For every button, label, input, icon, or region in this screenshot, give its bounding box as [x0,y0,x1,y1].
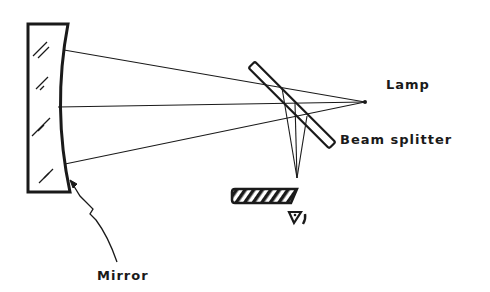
mirror-body [28,24,70,192]
mirror-pointer-arrow [70,180,117,262]
rays-mirror-lamp [58,50,365,164]
beam-splitter-label: Beam splitter [340,132,452,147]
beam-splitter [249,62,336,149]
mirror-label: Mirror [97,268,149,283]
lamp-point-icon [363,100,367,104]
knife-edge-icon [232,189,297,203]
lamp-label: Lamp [386,77,430,92]
ray-center [58,102,365,107]
eye-icon [289,212,305,224]
ray-top [64,50,365,102]
ray-bottom [65,102,365,164]
mirror [28,24,70,192]
